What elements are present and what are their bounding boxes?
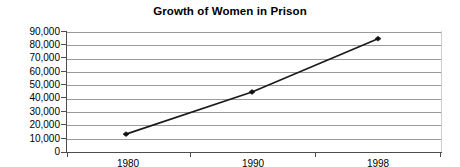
x-tick-label-1998: 1998 [343, 158, 413, 167]
gridline [67, 99, 441, 100]
gridline [67, 72, 441, 73]
y-tick-label: 20,000 [2, 120, 60, 130]
gridline [67, 32, 441, 33]
y-tick-label: 0 [2, 147, 60, 157]
gridline [67, 59, 441, 60]
y-tick-label: 60,000 [2, 67, 60, 77]
gridline [67, 125, 441, 126]
x-tick-mark [440, 152, 441, 157]
y-tick-label: 40,000 [2, 93, 60, 103]
y-tick-label: 30,000 [2, 107, 60, 117]
y-axis-line [66, 31, 67, 153]
y-axis-labels: 90,000 80,000 70,000 60,000 50,000 40,00… [0, 0, 60, 167]
x-axis-line [66, 152, 442, 153]
y-tick-label: 70,000 [2, 53, 60, 63]
gridline [67, 45, 441, 46]
x-tick-mark [190, 152, 191, 157]
x-tick-mark [67, 152, 68, 157]
x-tick-label-1990: 1990 [218, 158, 288, 167]
x-tick-mark [315, 152, 316, 157]
y-tick-label: 90,000 [2, 27, 60, 37]
x-tick-label-1980: 1980 [93, 158, 163, 167]
gridline [67, 112, 441, 113]
chart-title: Growth of Women in Prison [0, 5, 460, 17]
chart-container: Growth of Women in Prison 90,000 80,000 … [0, 0, 460, 167]
y-tick-label: 10,000 [2, 134, 60, 144]
y-tick-label: 50,000 [2, 80, 60, 90]
y-tick-label: 80,000 [2, 40, 60, 50]
gridline [67, 139, 441, 140]
gridline [67, 85, 441, 86]
plot-area [67, 32, 441, 152]
plot-right-edge [441, 31, 442, 153]
